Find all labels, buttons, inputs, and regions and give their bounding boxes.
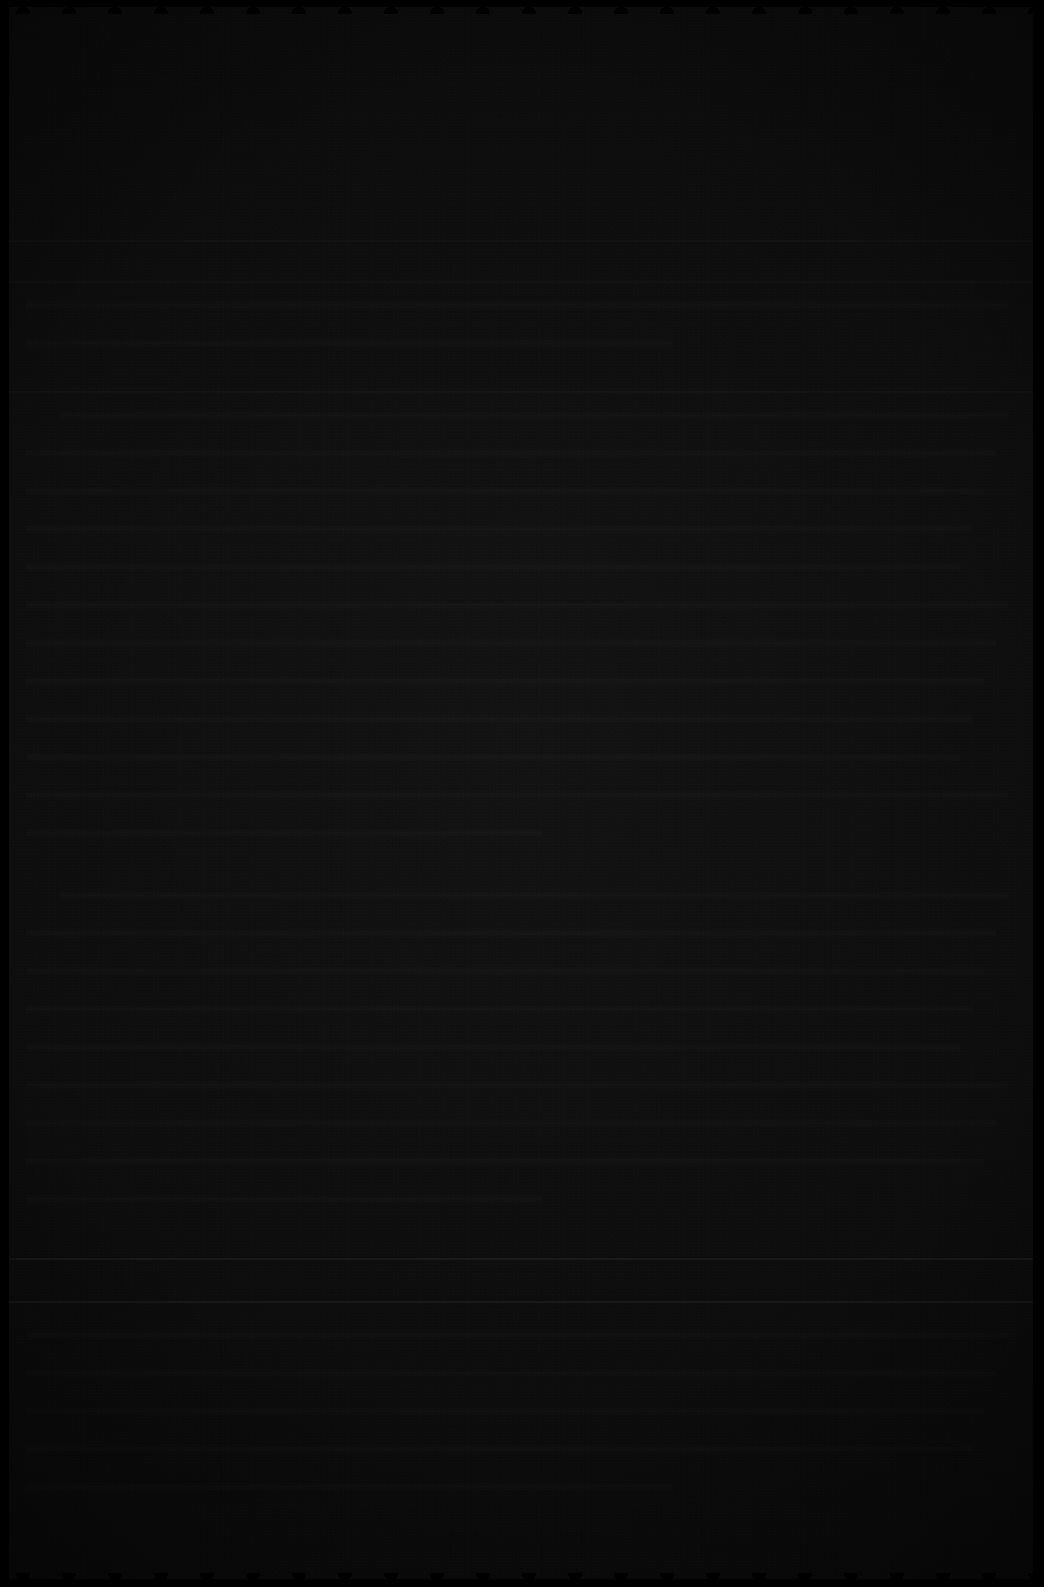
text-line <box>26 928 996 939</box>
scanned-document-page: Image is a severely under-exposed scan; … <box>0 0 1044 1587</box>
text-line <box>26 1194 542 1205</box>
text-line <box>26 714 972 725</box>
text-line <box>26 600 1008 611</box>
faint-rule-upper <box>6 240 1036 242</box>
footer-rule-top <box>6 1258 1036 1260</box>
text-line <box>26 448 996 459</box>
text-line <box>60 410 1008 421</box>
text-line <box>26 1368 996 1379</box>
block-footer <box>0 1330 1044 1520</box>
faint-rule-mid <box>6 391 1036 393</box>
text-line <box>26 1406 984 1417</box>
block-upper <box>0 300 1044 376</box>
text-line <box>26 562 960 573</box>
text-line <box>26 638 996 649</box>
text-line <box>26 1004 972 1015</box>
text-line <box>26 338 671 349</box>
text-line <box>26 1482 671 1493</box>
text-line <box>26 524 972 535</box>
text-line <box>26 1444 972 1455</box>
faint-rule-upper2 <box>6 281 1036 283</box>
block-body-1 <box>0 410 1044 866</box>
text-line <box>26 486 984 497</box>
text-line <box>26 1156 984 1167</box>
text-line <box>26 1042 960 1053</box>
text-line <box>26 790 1008 801</box>
text-line <box>26 676 984 687</box>
text-line <box>26 828 542 839</box>
text-line <box>26 1330 1008 1341</box>
block-body-2 <box>0 890 1044 1232</box>
text-line <box>26 300 1008 311</box>
text-line <box>26 752 960 763</box>
text-line <box>26 1118 996 1129</box>
text-line <box>26 966 984 977</box>
text-line <box>60 890 1008 901</box>
text-line <box>26 1080 1008 1091</box>
footer-rule-bottom <box>6 1301 1036 1303</box>
